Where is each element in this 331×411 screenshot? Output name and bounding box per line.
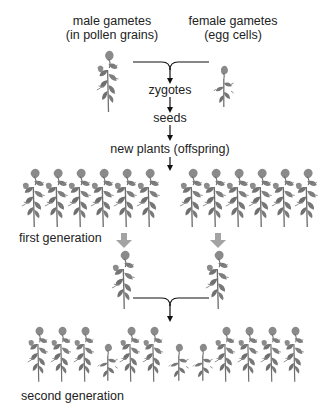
selected-parent-left: [112, 251, 135, 309]
diagram-canvas: [0, 0, 331, 411]
first-generation-label: first generation: [19, 231, 102, 245]
male-gametes-label: male gametes (in pollen grains): [62, 14, 162, 42]
female-gametes-line2: (egg cells): [183, 28, 283, 42]
arrow-seeds-to-new-plants: [167, 125, 173, 141]
fat-arrow-right: [210, 233, 226, 248]
second-generation-row: [28, 327, 304, 382]
male-parent-plant: [97, 51, 119, 112]
selected-parent-right: [206, 251, 229, 309]
female-gametes-line1: female gametes: [183, 14, 283, 28]
female-parent-plant: [214, 66, 234, 107]
second-generation-label: second generation: [21, 389, 124, 403]
male-gametes-line2: (in pollen grains): [62, 28, 162, 42]
first-generation-right-group: [180, 169, 318, 227]
first-generation-left-group: [22, 169, 160, 227]
bottom-merge-brace: [133, 298, 209, 322]
fat-arrow-left: [116, 233, 132, 248]
top-merge-brace: [133, 62, 209, 84]
zygotes-label: zygotes: [140, 83, 200, 97]
female-gametes-label: female gametes (egg cells): [183, 14, 283, 42]
new-plants-label: new plants (offspring): [100, 142, 240, 156]
arrow-to-first-generation: [167, 157, 173, 171]
seeds-label: seeds: [140, 111, 200, 125]
male-gametes-line1: male gametes: [62, 14, 162, 28]
